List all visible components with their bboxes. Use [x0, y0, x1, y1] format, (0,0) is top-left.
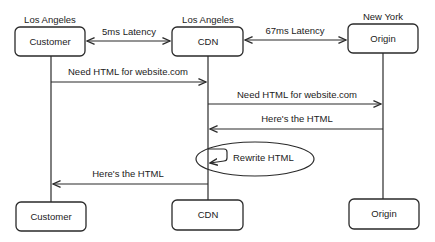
cdn-location-label: Los Angeles — [182, 14, 234, 25]
message-label-5: Here's the HTML — [92, 168, 164, 179]
participant-box-origin-bottom: Origin — [349, 199, 419, 229]
participant-box-customer-bottom: Customer — [16, 202, 86, 231]
sequence-diagram: Los Angeles Los Angeles New York Custome… — [0, 0, 435, 242]
self-loop-arrow — [208, 149, 227, 163]
origin-label-bottom: Origin — [371, 208, 396, 219]
participant-box-customer-top: Customer — [15, 27, 85, 56]
participant-box-origin-top: Origin — [348, 24, 418, 53]
participant-box-cdn-top: CDN — [172, 27, 243, 56]
customer-location-label: Los Angeles — [24, 14, 76, 25]
cdn-label-bottom: CDN — [198, 209, 219, 220]
message-label-3: Here's the HTML — [261, 113, 333, 124]
latency-label-cdn-origin: 67ms Latency — [265, 25, 324, 36]
origin-location-label: New York — [363, 11, 403, 22]
origin-label: Origin — [370, 33, 395, 44]
message-label-1: Need HTML for website.com — [68, 66, 188, 77]
message-label-4: Rewrite HTML — [233, 152, 294, 163]
customer-label-bottom: Customer — [30, 211, 71, 222]
latency-label-customer-cdn: 5ms Latency — [102, 26, 156, 37]
cdn-label: CDN — [198, 36, 219, 47]
message-label-2: Need HTML for website.com — [237, 89, 357, 100]
participant-box-cdn-bottom: CDN — [172, 200, 243, 230]
customer-label: Customer — [29, 36, 70, 47]
